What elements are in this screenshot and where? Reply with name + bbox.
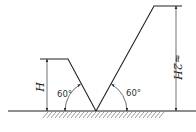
- angle-label-right: 60°: [126, 88, 141, 98]
- angle-label-left: 60°: [57, 89, 72, 99]
- left-slope: [40, 59, 96, 111]
- angle-arc-right: [112, 84, 128, 111]
- height-label-right: ≈2H: [171, 54, 184, 80]
- height-label-left: H: [34, 82, 47, 93]
- slope-diagram: H ≈2H 60° 60°: [0, 0, 196, 132]
- ground-hatching: [43, 112, 164, 118]
